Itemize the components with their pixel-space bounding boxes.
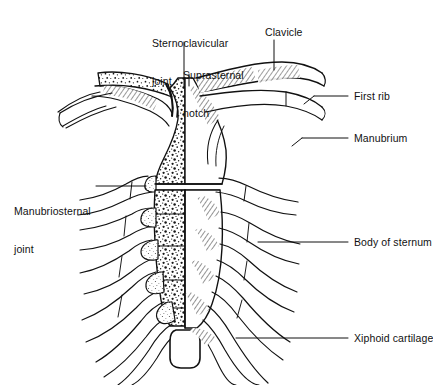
label-suprasternal-notch: Suprasternal notch bbox=[183, 44, 244, 144]
label-xiphoid-cartilage: Xiphoid cartilage bbox=[354, 332, 433, 345]
leader-manubrium-kink bbox=[292, 138, 302, 146]
label-manubriosternal-joint: Manubriosternal joint bbox=[14, 180, 91, 280]
label-suprasternal-notch-line1: Suprasternal bbox=[183, 69, 244, 82]
label-suprasternal-notch-line2: notch bbox=[183, 107, 244, 120]
xiphoid-cartilage bbox=[170, 328, 216, 368]
label-manubriosternal-joint-line2: joint bbox=[14, 243, 91, 256]
sternum-body-right-half bbox=[185, 190, 222, 328]
label-first-rib: First rib bbox=[354, 90, 390, 103]
label-manubrium: Manubrium bbox=[354, 132, 407, 145]
label-clavicle: Clavicle bbox=[265, 26, 303, 39]
label-manubriosternal-joint-line1: Manubriosternal bbox=[14, 205, 91, 218]
label-body-of-sternum: Body of sternum bbox=[354, 236, 432, 249]
manubriosternal-joint-line bbox=[155, 184, 222, 190]
